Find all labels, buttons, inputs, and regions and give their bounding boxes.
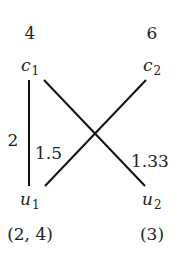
c1-value: 4 xyxy=(25,23,36,43)
c1-label: c1 xyxy=(21,55,39,78)
u1-value: (2, 4) xyxy=(7,224,53,244)
u1-label: u1 xyxy=(20,189,40,212)
edge-c1-u1-weight: 2 xyxy=(8,130,19,150)
edge-c2-u1-weight: 1.5 xyxy=(35,143,62,163)
c2-label: c2 xyxy=(143,55,161,78)
u2-value: (3) xyxy=(140,224,164,244)
u2-label: u2 xyxy=(142,189,162,212)
bipartite-graph: 4 6 c1 c2 2 1.5 1.33 u1 u2 (2, 4) (3) xyxy=(0,0,181,258)
c2-value: 6 xyxy=(147,23,158,43)
edge-c1-u2-weight: 1.33 xyxy=(131,151,169,171)
